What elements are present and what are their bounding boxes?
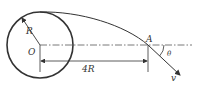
velocity-arrow — [148, 45, 180, 75]
label-radius: R — [25, 26, 33, 36]
label-point: A — [145, 34, 153, 44]
diagram-canvas: R O 4R A θ v — [0, 0, 199, 85]
label-distance: 4R — [81, 64, 95, 74]
label-center: O — [28, 47, 36, 57]
label-velocity: v — [171, 73, 176, 83]
angle-arc — [160, 45, 164, 56]
label-angle: θ — [167, 50, 172, 58]
